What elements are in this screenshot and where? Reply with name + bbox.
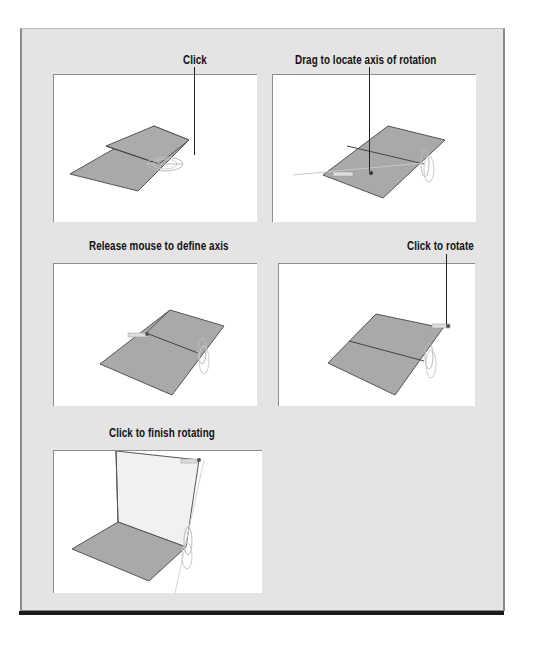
rotate-illustration-5 xyxy=(54,451,262,593)
callout-line-drag xyxy=(369,67,370,171)
panel-click xyxy=(53,74,257,222)
rotate-illustration-2 xyxy=(273,75,476,222)
rotate-illustration-1 xyxy=(54,75,257,222)
caption-drag-axis: Drag to locate axis of rotation xyxy=(295,53,436,67)
panel-release-axis xyxy=(53,263,257,406)
caption-click-rotate: Click to rotate xyxy=(407,239,474,253)
callout-line-click xyxy=(194,67,195,155)
caption-finish-rotate: Click to finish rotating xyxy=(109,426,215,440)
panel-drag-axis xyxy=(272,74,476,222)
caption-release-axis: Release mouse to define axis xyxy=(89,239,229,253)
caption-click: Click xyxy=(183,53,207,67)
panel-finish-rotate xyxy=(53,450,262,593)
bottom-rule xyxy=(19,611,504,615)
callout-line-rotate xyxy=(446,254,447,324)
rotate-illustration-3 xyxy=(54,264,257,406)
